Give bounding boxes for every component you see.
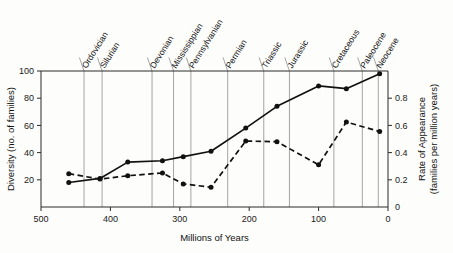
x-tick-label-3: 200 [242,214,257,224]
data-point-0-7 [274,104,279,109]
x-tick-label-2: 300 [172,214,187,224]
data-point-1-5 [209,185,214,190]
period-label-triassic: Triassic [259,39,283,70]
y2-axis-label-line1: Rate of Appearance [416,97,427,181]
period-divider-group [84,71,378,207]
data-point-1-3 [160,171,165,176]
data-point-1-2 [125,173,130,178]
x-tick-label-0: 500 [33,214,48,224]
y-tick-label-3: 80 [24,93,34,103]
y-tick-label-4: 100 [19,66,34,76]
data-point-1-6 [243,139,248,144]
period-label-group: OrdovicianSilurianDevonianMississippianP… [80,17,401,70]
figure-container: OrdovicianSilurianDevonianMississippianP… [0,0,453,253]
y2-tick-label-2: 0.4 [395,148,408,158]
x-tick-label-5: 0 [385,214,390,224]
y2-tick-label-0: 0 [395,202,400,212]
x-axis-label: Millions of Years [180,232,249,243]
data-point-0-3 [160,158,165,163]
period-label-permian: Permian [223,37,249,70]
data-point-1-9 [344,120,349,125]
data-point-1-10 [377,129,382,134]
data-point-1-0 [66,171,71,176]
data-point-1-7 [274,139,279,144]
y2-tick-label-1: 0.2 [395,175,408,185]
y-tick-label-1: 40 [24,148,34,158]
data-point-0-10 [377,71,382,76]
y2-tick-label-3: 0.6 [395,121,408,131]
data-point-1-1 [97,177,102,182]
data-point-0-0 [66,180,71,185]
x-tick-label-4: 100 [311,214,326,224]
y-tick-label-0: 20 [24,175,34,185]
data-point-1-4 [181,181,186,186]
data-point-0-2 [125,160,130,165]
data-point-1-8 [316,162,321,167]
data-point-0-5 [209,149,214,154]
data-point-0-6 [243,126,248,131]
series-line-rate [69,122,380,187]
data-point-0-9 [344,86,349,91]
y2-tick-label-4: 0.8 [395,93,408,103]
series-line-diversity [69,74,380,183]
period-label-cretaceous: Cretaceous [330,27,362,70]
x-axis-tick-group: 5004003002001000 [33,207,390,224]
y-tick-label-2: 60 [24,121,34,131]
x-tick-label-1: 400 [103,214,118,224]
diversity-rate-chart: OrdovicianSilurianDevonianMississippianP… [0,0,453,253]
y2-axis-tick-group: 00.20.40.60.8 [388,93,408,212]
y-axis-label: Diversity (no. of families) [5,87,16,191]
y-axis-tick-group: 20406080100 [19,66,41,185]
data-point-0-4 [181,154,186,159]
data-point-0-8 [316,83,321,88]
period-label-jurassic: Jurassic [285,37,311,70]
y2-axis-label-line2: (families per million years) [428,84,439,194]
data-series-group [66,71,382,190]
